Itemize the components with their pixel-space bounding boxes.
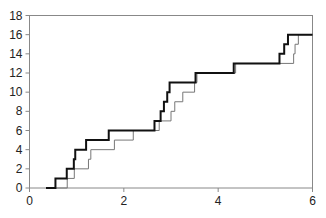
y-tick-label: 8	[16, 104, 23, 118]
y-tick-label: 18	[9, 9, 23, 23]
step-series-line	[46, 35, 312, 188]
y-tick-label: 0	[16, 181, 23, 195]
series-group	[46, 35, 312, 188]
y-axis: 024681012141618	[9, 9, 29, 196]
plot-area	[30, 16, 313, 189]
step-series-line	[46, 35, 312, 188]
x-tick-label: 0	[26, 194, 33, 208]
x-axis: 0246	[26, 188, 316, 208]
y-tick-label: 12	[9, 66, 23, 80]
x-tick-label: 4	[215, 194, 222, 208]
y-tick-label: 16	[9, 28, 23, 42]
step-chart: 024681012141618 0246	[0, 0, 326, 218]
y-tick-label: 4	[16, 143, 23, 157]
y-tick-label: 10	[9, 85, 23, 99]
y-tick-label: 2	[16, 162, 23, 176]
x-tick-label: 2	[120, 194, 127, 208]
y-tick-label: 14	[9, 47, 23, 61]
x-tick-label: 6	[309, 194, 316, 208]
y-tick-label: 6	[16, 124, 23, 138]
